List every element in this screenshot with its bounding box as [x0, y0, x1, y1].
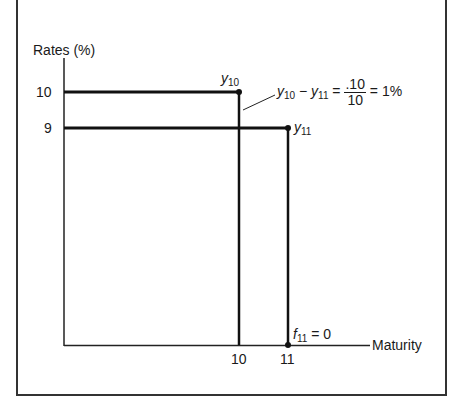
x-axis-label: Maturity — [372, 338, 422, 352]
y-tick-9: 9 — [44, 121, 52, 135]
x-tick-10: 10 — [231, 352, 247, 366]
spread-annotation: y10 − y11 = .1010 = 1% — [277, 77, 402, 107]
y11-point — [285, 125, 291, 131]
f11-label: f11 = 0 — [293, 327, 331, 344]
x-tick-11: 11 — [280, 352, 295, 366]
y-axis-label: Rates (%) — [33, 43, 95, 57]
y10-label: y10 — [221, 71, 239, 88]
y10-point — [236, 89, 242, 95]
y-tick-10: 10 — [36, 85, 52, 99]
f11-point — [285, 342, 291, 348]
spread-fraction: .1010 — [344, 77, 365, 107]
annotation-leader — [243, 95, 275, 110]
y11-label: y11 — [294, 120, 311, 137]
